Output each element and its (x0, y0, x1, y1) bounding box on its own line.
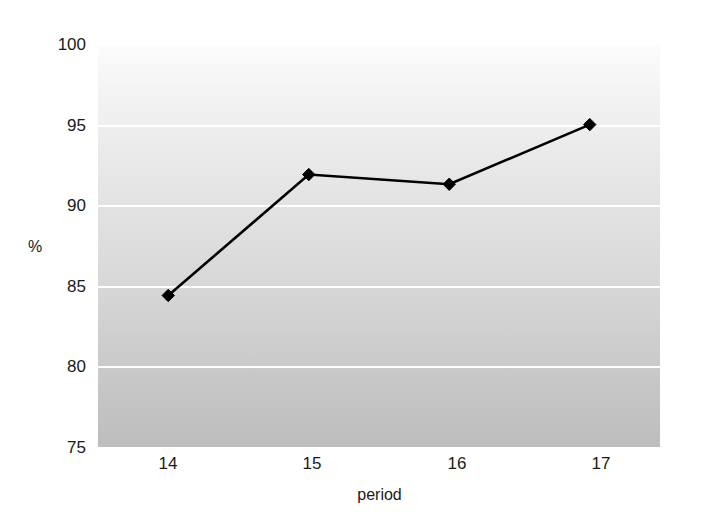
y-tick-label-90: 90 (40, 197, 86, 214)
y-tick-label-95: 95 (40, 116, 86, 133)
series-line (168, 125, 590, 296)
x-tick-label-15: 15 (303, 455, 322, 472)
y-tick-label-80: 80 (40, 358, 86, 375)
x-tick-label-17: 17 (592, 455, 611, 472)
data-point-marker (584, 118, 596, 130)
line-chart: 100 95 90 85 80 75 14 15 16 17 % period (0, 0, 701, 529)
y-tick-label-85: 85 (40, 277, 86, 294)
plot-area (98, 44, 660, 447)
x-tick-label-14: 14 (159, 455, 178, 472)
x-axis-title: period (0, 487, 701, 503)
x-tick-label-16: 16 (448, 455, 467, 472)
x-axis-title-text: period (357, 486, 401, 503)
y-axis-title: % (28, 239, 42, 255)
y-axis-ticks: 100 95 90 85 80 75 (36, 44, 86, 447)
x-axis-ticks: 14 15 16 17 (0, 455, 701, 477)
y-tick-label-100: 100 (40, 36, 86, 53)
series-markers (162, 118, 596, 301)
data-series-layer (98, 44, 660, 447)
y-tick-label-75: 75 (40, 439, 86, 456)
data-point-marker (443, 178, 455, 190)
